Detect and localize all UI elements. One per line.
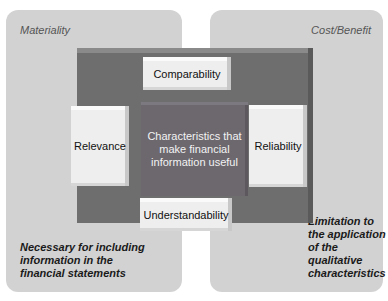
materiality-note: Necessary for including information in t… <box>20 241 150 280</box>
materiality-title: Materiality <box>20 24 70 36</box>
reliability-label: Reliability <box>254 140 301 152</box>
understandability-box: Understandability <box>140 198 232 231</box>
frame-bevel-top <box>77 48 313 53</box>
relevance-label: Relevance <box>74 140 126 152</box>
comparability-box: Comparability <box>143 57 231 90</box>
central-label: Characteristics that make financial info… <box>147 130 243 169</box>
understandability-label: Understandability <box>144 209 229 221</box>
central-characteristics-box: Characteristics that make financial info… <box>141 102 248 196</box>
relevance-box: Relevance <box>71 106 129 186</box>
cost-benefit-title: Cost/Benefit <box>311 24 371 36</box>
frame-bevel-right <box>308 48 313 223</box>
reliability-box: Reliability <box>249 105 307 187</box>
comparability-label: Comparability <box>153 68 220 80</box>
cost-benefit-note: Limitation to the application of the qua… <box>308 215 388 280</box>
